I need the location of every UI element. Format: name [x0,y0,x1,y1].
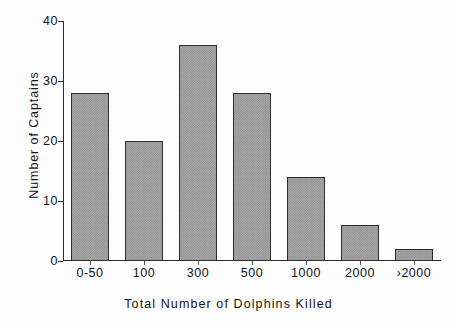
bar [395,249,433,261]
plot-area [63,21,441,261]
x-tick-label: 100 [133,266,155,280]
x-axis-title: Total Number of Dolphins Killed [0,297,457,311]
x-axis-tick-labels: 0-5010030050010002000›2000 [63,266,441,286]
x-tick-label: ›2000 [397,266,431,280]
y-tick-mark [58,201,63,202]
x-tick-mark [90,261,91,265]
x-tick-mark [252,261,253,265]
x-tick-mark [198,261,199,265]
bar [125,141,163,261]
x-tick-label: 300 [187,266,209,280]
y-tick-mark [58,141,63,142]
y-tick-label: 10 [32,194,58,208]
y-tick-label: 20 [32,134,58,148]
bar-series [63,21,441,261]
bar [287,177,325,261]
y-tick-mark [58,21,63,22]
x-tick-label: 2000 [345,266,375,280]
bar [179,45,217,261]
y-tick-label: 40 [32,14,58,28]
y-tick-mark [58,261,63,262]
y-tick-label: 30 [32,74,58,88]
bar [341,225,379,261]
x-tick-mark [414,261,415,265]
y-tick-mark [58,81,63,82]
bar [71,93,109,261]
x-tick-label: 1000 [291,266,321,280]
bar [233,93,271,261]
y-axis-tick-labels: 010203040 [30,0,58,322]
x-tick-mark [360,261,361,265]
x-tick-mark [144,261,145,265]
histogram-figure: Number of Captains 010203040 0-501003005… [0,0,457,322]
x-tick-mark [306,261,307,265]
y-tick-label: 0 [32,254,58,268]
x-tick-label: 0-50 [76,266,103,280]
x-tick-label: 500 [241,266,263,280]
